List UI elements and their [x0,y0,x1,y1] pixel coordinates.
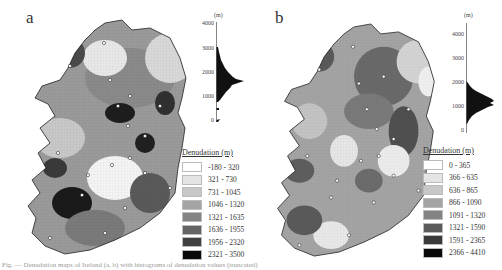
legend-title: Denudation (m) [423,146,485,155]
legend-label: 1591 - 2365 [449,236,485,245]
histogram-tick: 4000 [190,20,214,26]
legend-swatch [182,200,202,210]
legend-swatch [182,162,202,172]
histogram-a: (m) 4000 3000 2000 1000 0 [190,12,250,142]
legend-swatch [423,185,443,195]
legend-swatch [423,173,443,183]
legend-swatch [182,212,202,222]
legend-item: 1321 - 1590 [423,222,485,235]
legend-swatch [423,160,443,170]
legend-item: 1636 - 1955 [182,224,244,237]
legend-title: Denudation (m) [182,148,244,157]
histogram-bars-b [466,23,502,135]
legend-swatch [182,187,202,197]
legend-item: 1591 - 2365 [423,234,485,247]
legend-item: 1091 - 1320 [423,209,485,222]
legend-label: 636 - 865 [449,186,478,195]
legend-item: 2321 - 3500 [182,249,244,262]
legend-item: 321 - 730 [182,174,244,187]
legend-swatch [182,225,202,235]
legend-label: 1046 - 1320 [208,200,244,209]
legend-swatch [423,248,443,258]
legend-item: 731 - 1045 [182,186,244,199]
legend-label: 0 - 365 [449,161,470,170]
legend-swatch [182,175,202,185]
legend-swatch [423,210,443,220]
histogram-unit: (m) [214,12,223,18]
legend-b: Denudation (m) 0 - 365 366 - 635 636 - 8… [423,146,485,259]
histogram-tick: 3000 [440,55,464,61]
legend-item: 366 - 635 [423,172,485,185]
panel-a: a [0,0,251,258]
histogram-tick: 4000 [440,31,464,37]
legend-item: 1321 - 1635 [182,211,244,224]
legend-swatch [182,237,202,247]
legend-label: 366 - 635 [449,173,478,182]
legend-label: 321 - 730 [208,175,237,184]
legend-swatch [182,250,202,260]
legend-swatch [423,198,443,208]
legend-label: 1091 - 1320 [449,211,485,220]
histogram-unit: (m) [464,12,473,18]
legend-item: 2366 - 4410 [423,247,485,260]
legend-a: Denudation (m) -180 - 320 321 - 730 731 … [182,148,244,261]
panel-b: b [251,0,502,258]
histogram-tick: 0 [190,117,214,123]
legend-item: 0 - 365 [423,159,485,172]
histogram-bars-a [216,22,250,124]
legend-label: -180 - 320 [208,163,239,172]
histogram-tick: 3000 [190,45,214,51]
legend-label: 1321 - 1635 [208,213,244,222]
histogram-b: (m) 4000 3000 2000 1000 0 [440,5,502,140]
legend-label: 866 - 1090 [449,198,482,207]
legend-item: 636 - 865 [423,184,485,197]
histogram-tick: 0 [440,127,464,133]
legend-item: 1956 - 2320 [182,236,244,249]
legend-label: 2366 - 4410 [449,248,485,257]
legend-swatch [423,223,443,233]
legend-swatch [423,235,443,245]
legend-label: 731 - 1045 [208,188,241,197]
histogram-tick: 1000 [440,103,464,109]
ireland-map-a [10,18,190,258]
legend-label: 2321 - 3500 [208,250,244,259]
histogram-tick: 2000 [440,79,464,85]
legend-item: 866 - 1090 [423,197,485,210]
legend-label: 1636 - 1955 [208,225,244,234]
histogram-tick: 1000 [190,93,214,99]
legend-label: 1321 - 1590 [449,223,485,232]
ireland-map-b [259,22,439,260]
histogram-tick: 2000 [190,69,214,75]
figure-caption: Fig. — Denudation maps of Ireland (a, b)… [2,261,500,270]
legend-item: 1046 - 1320 [182,199,244,212]
legend-label: 1956 - 2320 [208,238,244,247]
legend-item: -180 - 320 [182,161,244,174]
